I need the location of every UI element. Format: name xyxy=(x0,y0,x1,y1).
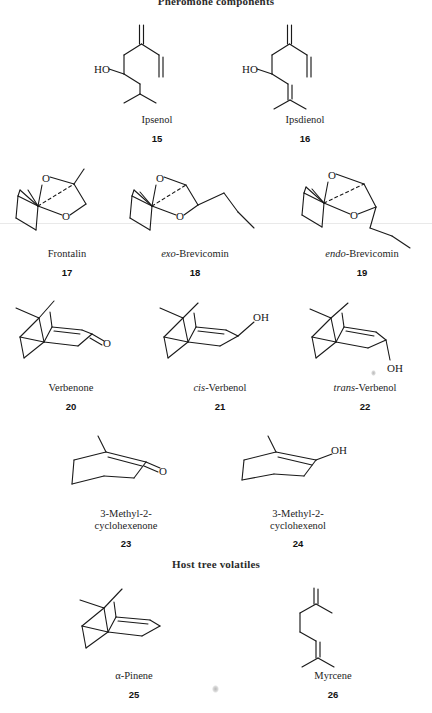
compound-number-23: 23 xyxy=(58,538,194,549)
compound-number-20: 20 xyxy=(6,401,136,412)
structure-ipsenol: HO xyxy=(92,22,222,102)
compound-number-18: 18 xyxy=(120,267,270,278)
atom-label-ho: HO xyxy=(94,63,110,75)
caption-trans-verbenol: trans-Verbenol xyxy=(298,382,432,394)
structure-cis-verbenol: OH xyxy=(150,296,290,374)
caption-exo-brevicomin: exo-Brevicomin xyxy=(120,248,270,260)
structure-ipsdienol: HO xyxy=(240,22,370,102)
compound-number-17: 17 xyxy=(6,267,128,278)
atom-label-ho: HO xyxy=(242,63,258,75)
compound-exo-brevicomin: O O exo-Brevicomin 18 xyxy=(120,160,270,278)
atom-label-o-top: O xyxy=(42,172,50,184)
structure-frontalin: O O xyxy=(6,160,128,240)
compound-ipsdienol: HO Ipsdienol 16 xyxy=(240,22,370,144)
structure-endo-brevicomin: O O xyxy=(292,160,432,240)
figure-page: Pheromone components xyxy=(0,0,432,713)
atom-label-oh: OH xyxy=(331,444,347,456)
compound-number-16: 16 xyxy=(240,133,370,144)
structure-exo-brevicomin: O O xyxy=(120,160,270,240)
compound-ipsenol: HO Ipsenol 15 xyxy=(92,22,222,144)
compound-number-21: 21 xyxy=(150,401,290,412)
caption-myrcene: Myrcene xyxy=(268,670,398,682)
compound-cis-verbenol: OH cis-Verbenol 21 xyxy=(150,296,290,412)
compound-number-15: 15 xyxy=(92,133,222,144)
atom-label-o-bottom: O xyxy=(350,209,358,221)
caption-cis-verbenol: cis-Verbenol xyxy=(150,382,290,394)
compound-number-24: 24 xyxy=(228,538,368,549)
compound-number-22: 22 xyxy=(298,401,432,412)
section-title-host: Host tree volatiles xyxy=(0,558,432,570)
structure-myrcene xyxy=(268,586,398,662)
structure-methylcyclohexenone: O xyxy=(58,426,194,498)
scan-smudge xyxy=(212,685,219,693)
caption-ipsenol: Ipsenol xyxy=(92,114,222,126)
compound-number-25: 25 xyxy=(64,689,204,700)
caption-ipsdienol: Ipsdienol xyxy=(240,114,370,126)
structure-verbenone: O xyxy=(6,296,136,374)
compound-myrcene: Myrcene 26 xyxy=(268,586,398,700)
atom-label-oh: OH xyxy=(387,362,403,374)
compound-verbenone: O Verbenone 20 xyxy=(6,296,136,412)
caption-methylcyclohexenone: 3-Methyl-2- cyclohexenone xyxy=(58,508,194,531)
caption-alpha-pinene: α-Pinene xyxy=(64,670,204,682)
compound-number-19: 19 xyxy=(292,267,432,278)
structure-alpha-pinene xyxy=(64,586,204,662)
compound-alpha-pinene: α-Pinene 25 xyxy=(64,586,204,700)
caption-endo-brevicomin: endo-Brevicomin xyxy=(292,248,432,260)
section-title-pheromone: Pheromone components xyxy=(0,0,432,7)
compound-trans-verbenol: OH trans-Verbenol 22 xyxy=(298,296,432,412)
atom-label-o-top: O xyxy=(328,169,336,181)
compound-frontalin: O O Frontalin 17 xyxy=(6,160,128,278)
structure-methylcyclohexenol: OH xyxy=(228,426,368,498)
compound-number-26: 26 xyxy=(268,689,398,700)
compound-methylcyclohexenone: O 3-Methyl-2- cyclohexenone 23 xyxy=(58,426,194,549)
caption-verbenone: Verbenone xyxy=(6,382,136,394)
compound-endo-brevicomin: O O endo-Brevicomin 19 xyxy=(292,160,432,278)
atom-label-o-bottom: O xyxy=(62,210,70,222)
caption-frontalin: Frontalin xyxy=(6,248,128,260)
atom-label-oh: OH xyxy=(253,311,269,323)
atom-label-o: O xyxy=(159,465,167,477)
compound-methylcyclohexenol: OH 3-Methyl-2- cyclohexenol 24 xyxy=(228,426,368,549)
atom-label-o: O xyxy=(103,337,111,349)
structure-trans-verbenol: OH xyxy=(298,296,432,374)
atom-label-o-top: O xyxy=(156,172,164,184)
atom-label-o-bottom: O xyxy=(176,210,184,222)
caption-methylcyclohexenol: 3-Methyl-2- cyclohexenol xyxy=(228,508,368,531)
